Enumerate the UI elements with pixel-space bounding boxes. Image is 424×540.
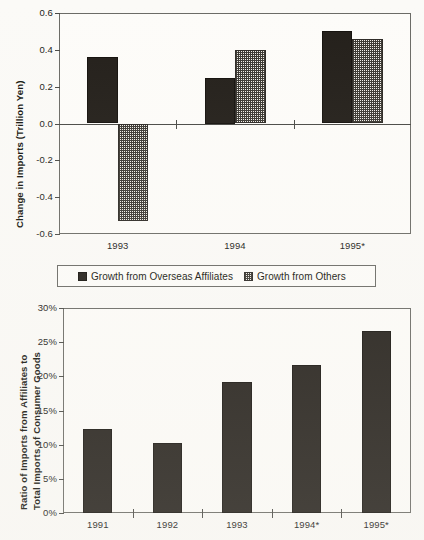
y-tick-label: 30% [19, 302, 57, 313]
y-tick-label: 0% [19, 507, 57, 518]
x-tick-mark [294, 120, 295, 129]
bar-1994-series2 [235, 50, 266, 124]
x-tick-label-1995star: 1995* [294, 240, 411, 251]
y-tick-label: 0.0 [15, 118, 53, 129]
y-tick-mark [55, 197, 60, 198]
bar-1991-series1 [83, 429, 112, 513]
y-tick-mark [59, 411, 64, 412]
y-tick-label: 5% [19, 473, 57, 484]
bar-1992-series1 [153, 443, 182, 513]
x-tick-label-1995star: 1995* [341, 519, 411, 530]
bar-1993-series2 [118, 124, 149, 222]
bar-1993-series1 [87, 57, 118, 123]
x-tick-label-1994star: 1994* [272, 519, 342, 530]
x-tick-label-1992: 1992 [133, 519, 203, 530]
y-tick-label: 0.4 [15, 44, 53, 55]
bar-1995star-series2 [352, 39, 383, 124]
legend-swatch-icon-1 [78, 272, 87, 281]
bar-1995star-series1 [322, 31, 353, 123]
y-tick-mark [59, 479, 64, 480]
y-tick-label: -0.6 [15, 228, 53, 239]
legend-label-2: Growth from Others [257, 271, 346, 282]
y-tick-label: 0.6 [15, 7, 53, 18]
legend-swatch-icon-2 [244, 272, 253, 281]
y-tick-label: -0.2 [15, 154, 53, 165]
y-tick-mark [59, 445, 64, 446]
chart-ratio-of-imports: Ratio of Imports from Affiliates to Tota… [0, 295, 424, 540]
y-tick-mark [55, 160, 60, 161]
bar-1994-series1 [205, 78, 236, 124]
y-tick-label: 10% [19, 439, 57, 450]
zero-baseline [59, 124, 411, 125]
x-tick-mark [202, 509, 203, 518]
x-tick-label-1993: 1993 [59, 240, 176, 251]
y-tick-mark [55, 87, 60, 88]
legend-label-1: Growth from Overseas Affiliates [91, 271, 233, 282]
y-tick-mark [55, 13, 60, 14]
y-tick-label: 25% [19, 336, 57, 347]
y-tick-mark [59, 513, 64, 514]
y-tick-mark [59, 376, 64, 377]
y-tick-label: -0.4 [15, 191, 53, 202]
y-tick-label: 15% [19, 405, 57, 416]
y-tick-label: 0.2 [15, 81, 53, 92]
x-tick-mark [133, 509, 134, 518]
x-tick-label-1994: 1994 [176, 240, 293, 251]
x-tick-mark [341, 509, 342, 518]
y-tick-mark [55, 234, 60, 235]
top-chart-legend: Growth from Overseas AffiliatesGrowth fr… [57, 265, 376, 287]
bar-1993-series1 [222, 382, 251, 513]
x-tick-mark [176, 120, 177, 129]
x-tick-label-1991: 1991 [63, 519, 133, 530]
bar-1994star-series1 [292, 365, 321, 513]
x-tick-label-1993: 1993 [202, 519, 272, 530]
y-tick-mark [59, 342, 64, 343]
y-tick-mark [55, 50, 60, 51]
legend-item-2[interactable]: Growth from Others [244, 271, 346, 282]
bar-1995star-series1 [362, 331, 391, 513]
y-tick-label: 20% [19, 370, 57, 381]
legend-item-1[interactable]: Growth from Overseas Affiliates [78, 271, 233, 282]
x-tick-mark [272, 509, 273, 518]
chart-change-in-imports: Change in Imports (Trillion Yen) 0.60.40… [0, 0, 424, 300]
y-tick-mark [59, 308, 64, 309]
